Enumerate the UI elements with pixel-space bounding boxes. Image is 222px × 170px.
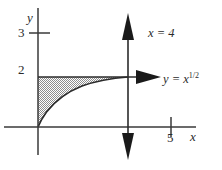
axis-label-y: y <box>27 11 33 24</box>
label-x-equals-4: x = 4 <box>148 27 174 40</box>
arrowhead-up <box>122 13 134 40</box>
tick-label-3: 3 <box>18 26 25 39</box>
curve-equation-base: y = x <box>163 72 189 86</box>
curve-equation-exponent: 1/2 <box>189 71 199 80</box>
axis-label-x: x <box>190 130 196 143</box>
tick-label-2: 2 <box>18 63 25 76</box>
shaded-region <box>38 77 128 127</box>
arrowhead-down <box>122 133 134 160</box>
arrowhead-right <box>136 70 161 84</box>
tick-label-5: 5 <box>167 131 174 144</box>
math-figure: y 3 2 5 x x = 4 y = x1/2 <box>0 0 222 170</box>
label-curve-equation: y = x1/2 <box>163 72 199 86</box>
